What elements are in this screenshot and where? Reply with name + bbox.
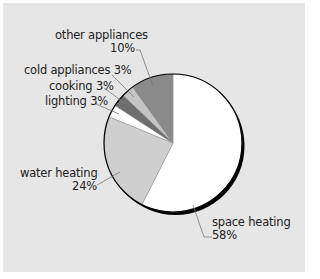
label-space-heating: space heating 58% <box>212 216 291 242</box>
label-lighting: lighting 3% <box>45 95 108 108</box>
label-other-appliances: other appliances 10% <box>55 29 135 55</box>
label-space-heating-pct: 58% <box>212 229 291 242</box>
label-cooking: cooking 3% <box>49 80 114 93</box>
label-water-heating-pct: 24% <box>20 180 97 193</box>
pie-slices <box>104 74 242 212</box>
label-other-appliances-pct: 10% <box>55 42 135 55</box>
leader-cold-appliances <box>112 75 134 97</box>
label-cold-appliances: cold appliances 3% <box>24 64 132 77</box>
label-water-heating: water heating 24% <box>20 167 97 193</box>
